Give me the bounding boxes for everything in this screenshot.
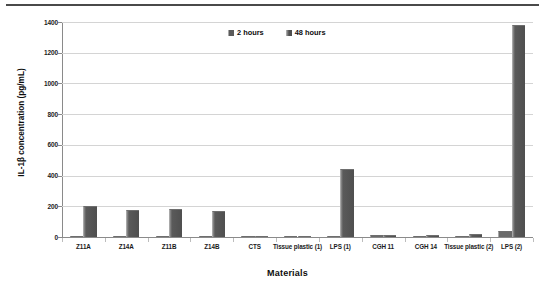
- x-tick-label-lps-2-: LPS (2): [486, 243, 537, 251]
- x-tick-mark-0: [105, 238, 106, 242]
- bar-tissue-plastic-1--2-hours: [284, 236, 297, 237]
- bar-z11b-48-hours: [169, 209, 182, 237]
- bar-lps-1--48-hours: [340, 169, 353, 237]
- x-tick-mark-2: [190, 238, 191, 242]
- x-axis-title: Materials: [0, 268, 545, 278]
- bar-lps-2--48-hours: [512, 25, 525, 237]
- x-tick-mark-10: [533, 238, 534, 242]
- y-tick-label-600: 600: [12, 141, 58, 148]
- y-axis-tick-labels: 0200400600800100012001400: [0, 0, 58, 293]
- bar-lps-2--2-hours: [498, 231, 511, 237]
- bar-cgh-14-2-hours: [413, 236, 426, 237]
- x-tick-mark-3: [233, 238, 234, 242]
- x-tick-mark-6: [362, 238, 363, 242]
- legend-swatch-48-hours-icon: [286, 30, 292, 36]
- x-tick-mark-8: [447, 238, 448, 242]
- bar-cgh-11-2-hours: [370, 235, 383, 237]
- gridline-1200: [62, 53, 533, 54]
- y-tick-label-800: 800: [12, 111, 58, 118]
- bar-cts-2-hours: [241, 236, 254, 237]
- bar-cgh-14-48-hours: [426, 235, 439, 237]
- plot-area: [62, 22, 533, 237]
- bar-z14a-48-hours: [126, 210, 139, 237]
- legend-label-48-hours: 48 hours: [295, 28, 326, 37]
- chart-legend: 2 hours 48 hours: [228, 28, 326, 37]
- y-tick-label-1200: 1200: [12, 49, 58, 56]
- bar-lps-1--2-hours: [327, 236, 340, 237]
- bar-z14b-48-hours: [212, 211, 225, 237]
- bar-tissue-plastic-1--48-hours: [298, 236, 311, 237]
- gridline-0: [62, 237, 533, 238]
- bar-cts-48-hours: [255, 236, 268, 237]
- y-tick-label-1000: 1000: [12, 80, 58, 87]
- bar-z11b-2-hours: [156, 236, 169, 237]
- y-tick-label-0: 0: [12, 234, 58, 241]
- y-tick-label-200: 200: [12, 203, 58, 210]
- bar-z11a-48-hours: [83, 206, 96, 237]
- x-tick-mark-9: [490, 238, 491, 242]
- gridline-600: [62, 145, 533, 146]
- gridline-1000: [62, 83, 533, 84]
- bar-z11a-2-hours: [70, 236, 83, 237]
- x-tick-mark-1: [148, 238, 149, 242]
- x-tick-mark-origin: [62, 238, 63, 242]
- x-tick-mark-4: [276, 238, 277, 242]
- legend-swatch-2-hours-icon: [228, 30, 234, 36]
- bar-tissue-plastic-2--48-hours: [469, 234, 482, 237]
- bar-tissue-plastic-2--2-hours: [455, 236, 468, 237]
- gridline-1400: [62, 22, 533, 23]
- bar-z14b-2-hours: [199, 236, 212, 237]
- bar-cgh-11-48-hours: [383, 235, 396, 237]
- legend-item-2-hours: 2 hours: [228, 28, 264, 37]
- chart-figure: IL-1β concentration (pg/mL) 020040060080…: [0, 0, 545, 293]
- bar-z14a-2-hours: [113, 236, 126, 237]
- y-tick-label-400: 400: [12, 172, 58, 179]
- x-tick-mark-5: [319, 238, 320, 242]
- gridline-400: [62, 176, 533, 177]
- legend-item-48-hours: 48 hours: [286, 28, 326, 37]
- gridline-800: [62, 114, 533, 115]
- gridline-200: [62, 206, 533, 207]
- x-axis-title-text: Materials: [267, 268, 308, 278]
- y-tick-label-1400: 1400: [12, 19, 58, 26]
- page-divider-rule: [6, 4, 539, 6]
- legend-label-2-hours: 2 hours: [237, 28, 264, 37]
- x-tick-mark-7: [405, 238, 406, 242]
